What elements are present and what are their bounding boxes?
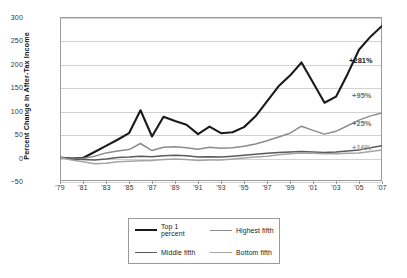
y-tick-label: 100	[0, 111, 23, 118]
series-end-label: +281%	[349, 56, 373, 65]
legend-label: Middle fifth	[161, 249, 196, 256]
series-lines	[60, 17, 382, 181]
series-end-label: +16%	[352, 143, 372, 152]
y-tick-label: 50	[0, 134, 23, 141]
series-end-label: +25%	[352, 119, 372, 128]
legend-item: Bottom fifth	[204, 249, 279, 256]
y-axis-title: Percent Change in After-Tax Income	[23, 21, 31, 171]
legend-label: Top 1 percent	[161, 223, 204, 237]
series-end-label: +95%	[352, 91, 372, 100]
legend-item: Highest fifth	[204, 227, 279, 234]
x-tick-label: '07	[369, 184, 395, 191]
y-tick-label: −50	[0, 181, 23, 188]
legend: Top 1 percentHighest fifthMiddle fifthBo…	[128, 218, 280, 264]
y-tick-label: 250	[0, 40, 23, 47]
legend-item: Middle fifth	[129, 249, 204, 256]
legend-label: Bottom fifth	[236, 249, 272, 256]
y-tick-label: 300	[0, 17, 23, 24]
y-tick-label: 150	[0, 87, 23, 94]
legend-item: Top 1 percent	[129, 223, 204, 237]
legend-color-swatch	[135, 252, 157, 253]
legend-color-swatch	[210, 252, 232, 253]
chart-container: Percent Change in After-Tax Income 30025…	[0, 0, 407, 278]
y-tick-label: 0	[0, 158, 23, 165]
y-tick-label: 200	[0, 64, 23, 71]
legend-color-swatch	[210, 230, 232, 231]
legend-color-swatch	[135, 229, 157, 231]
series-line	[60, 26, 382, 159]
legend-label: Highest fifth	[236, 227, 274, 234]
